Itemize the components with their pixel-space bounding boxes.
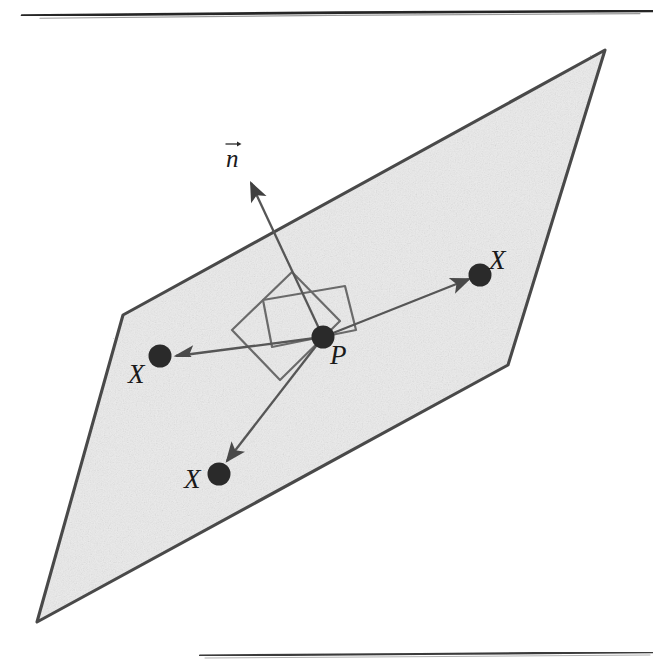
point-label-X-right: X xyxy=(489,245,506,276)
point-label-P: P xyxy=(330,340,347,371)
bottom-rule xyxy=(200,652,653,658)
normal-vector-label: n xyxy=(226,143,239,173)
geometry-figure xyxy=(0,0,653,662)
figure-container: n P X X X xyxy=(0,0,653,662)
point-label-X-bottom: X xyxy=(184,464,201,495)
point-dot-X-left xyxy=(149,345,172,368)
top-rule xyxy=(22,11,653,18)
normal-vector-label-text: n xyxy=(226,145,239,172)
point-dot-X-bottom xyxy=(208,463,231,486)
point-label-X-left: X xyxy=(128,359,145,390)
